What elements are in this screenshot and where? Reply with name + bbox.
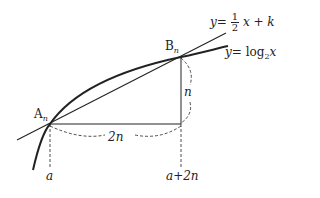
curve-equation-label: y= log2x	[225, 46, 276, 61]
line-equation-label: y= 12 x + k	[210, 12, 275, 33]
vertical-length-label: n	[184, 86, 192, 98]
x-tick-b: a+2n	[166, 170, 199, 182]
point-b-label: Bn	[165, 40, 179, 55]
log-curve	[33, 46, 228, 170]
horizontal-length-label: 2n	[108, 131, 123, 143]
point-a-label: An	[34, 108, 48, 123]
x-tick-a: a	[46, 170, 53, 182]
